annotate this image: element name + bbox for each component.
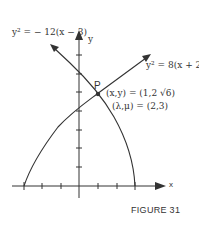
figure-caption: FIGURE 31 xyxy=(131,205,180,215)
point-coordinates: (x,y) = (1,2 √6) xyxy=(106,88,175,98)
y-axis-label: y xyxy=(88,34,93,44)
x-axis-label: x xyxy=(169,180,173,189)
parabola-left-opening xyxy=(54,48,135,186)
lambda-mu-values: (λ,μ) = (2,3) xyxy=(112,101,168,111)
x-axis xyxy=(12,182,160,190)
curve-label-left: y² = − 12(x − 3) xyxy=(12,27,87,37)
intersection-point xyxy=(96,92,100,96)
parabola-right-opening xyxy=(24,58,146,186)
point-label: P xyxy=(94,80,101,91)
y-axis xyxy=(76,38,82,198)
curve-label-right: y² = 8(x + 2) xyxy=(146,60,199,70)
x-axis-arrow xyxy=(155,182,166,190)
